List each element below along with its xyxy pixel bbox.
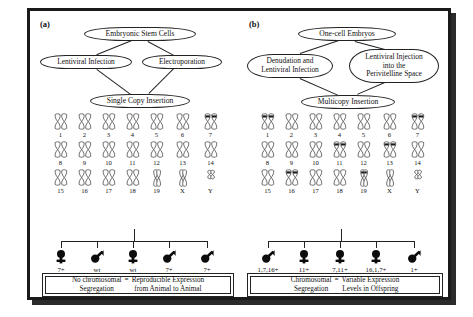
chromosome-3[interactable]: 3 xyxy=(100,113,117,138)
chromosome-number-16: 16 xyxy=(76,187,93,194)
chromosome-1[interactable]: 1 xyxy=(259,113,276,138)
node-method-right-b[interactable]: Lentiviral Injectioninto thePerivitellin… xyxy=(349,49,439,83)
chromosome-16[interactable]: 16 xyxy=(76,169,93,194)
chromosome-7[interactable]: 7 xyxy=(202,113,219,138)
node-source-b[interactable]: One-cell Embryos xyxy=(298,27,396,41)
offspring-4[interactable]: 16,1,7+ xyxy=(361,249,391,274)
chromosome-glyph-19 xyxy=(355,169,372,188)
chromosome-19[interactable]: 19 xyxy=(355,169,372,194)
karyotype-row: 1234567 xyxy=(46,113,236,141)
offspring-5[interactable]: 1+ xyxy=(399,249,429,274)
panel-b: (b) One-cell EmbryosDenudation andLentiv… xyxy=(239,11,448,297)
offspring-2[interactable]: wt xyxy=(82,249,112,274)
node-method-left-b[interactable]: Denudation andLentiviral Infection xyxy=(247,54,333,78)
chromosome-11[interactable]: 11 xyxy=(331,141,348,166)
chromosome-13[interactable]: 13 xyxy=(174,141,191,166)
chromosome-glyph-13 xyxy=(174,141,191,160)
chromosome-number-5: 5 xyxy=(355,131,372,138)
chromosome-1[interactable]: 1 xyxy=(52,113,69,138)
chromosome-6[interactable]: 6 xyxy=(381,113,398,138)
offspring-1[interactable]: 7+ xyxy=(46,249,76,274)
chromosome-8[interactable]: 8 xyxy=(52,141,69,166)
conclusion-equals-a: = xyxy=(125,276,129,285)
chromosome-3[interactable]: 3 xyxy=(307,113,324,138)
chromosome-number-10: 10 xyxy=(307,159,324,166)
pedigree-bar-a xyxy=(61,241,207,242)
chromosome-number-1: 1 xyxy=(259,131,276,138)
chromosome-17[interactable]: 17 xyxy=(307,169,324,194)
connector-source-to-left-b xyxy=(300,40,339,54)
chromosome-12[interactable]: 12 xyxy=(355,141,372,166)
chromosome-9[interactable]: 9 xyxy=(283,141,300,166)
chromosome-19[interactable]: 19 xyxy=(148,169,165,194)
chromosome-number-8: 8 xyxy=(259,159,276,166)
node-source-a-text: Embryonic Stem Cells xyxy=(106,30,175,39)
chromosome-4[interactable]: 4 xyxy=(124,113,141,138)
chromosome-18[interactable]: 18 xyxy=(331,169,348,194)
offspring-2[interactable]: 11+ xyxy=(289,249,319,274)
node-source-a[interactable]: Embryonic Stem Cells xyxy=(84,27,196,41)
chromosome-5[interactable]: 5 xyxy=(355,113,372,138)
chromosome-6[interactable]: 6 xyxy=(174,113,191,138)
chromosome-Y[interactable]: Y xyxy=(202,169,219,194)
chromosome-2[interactable]: 2 xyxy=(76,113,93,138)
offspring-4[interactable]: 7+ xyxy=(154,249,184,274)
chromosome-14[interactable]: 14 xyxy=(409,141,426,166)
chromosome-2[interactable]: 2 xyxy=(283,113,300,138)
chromosome-9[interactable]: 9 xyxy=(76,141,93,166)
chromosome-number-Y: Y xyxy=(202,187,219,194)
chromosome-12[interactable]: 12 xyxy=(148,141,165,166)
chromosome-10[interactable]: 10 xyxy=(307,141,324,166)
chromosome-number-9: 9 xyxy=(76,159,93,166)
karyotype-row: 1516171819XY xyxy=(253,169,443,197)
offspring-3[interactable]: 7,11+ xyxy=(325,249,355,274)
chromosome-5[interactable]: 5 xyxy=(148,113,165,138)
conclusion-right-b: Variable ExpressionLevels in Offspring xyxy=(342,276,400,294)
chromosome-Y[interactable]: Y xyxy=(409,169,426,194)
chromosome-7[interactable]: 7 xyxy=(409,113,426,138)
chromosome-glyph-3 xyxy=(307,113,324,132)
chromosome-15[interactable]: 15 xyxy=(52,169,69,194)
conclusion-grid-b: ChromosomalSegregation=Variable Expressi… xyxy=(291,276,399,294)
chromosome-18[interactable]: 18 xyxy=(124,169,141,194)
node-method-left-a-text: Lentiviral Infection xyxy=(57,58,115,67)
chromosome-glyph-14 xyxy=(202,141,219,160)
chromosome-10[interactable]: 10 xyxy=(100,141,117,166)
chromosome-16[interactable]: 16 xyxy=(283,169,300,194)
karyotype-row: 1234567 xyxy=(253,113,443,141)
karyotype-b: 12345678910111213141516171819XY xyxy=(253,113,443,197)
conclusion-box-b: ChromosomalSegregation=Variable Expressi… xyxy=(247,273,443,297)
conclusion-left-line1: Chromosomal xyxy=(291,276,332,285)
chromosome-glyph-19 xyxy=(148,169,165,188)
chromosome-11[interactable]: 11 xyxy=(124,141,141,166)
node-outcome-b[interactable]: Multicopy Insertion xyxy=(301,95,395,109)
chromosome-glyph-11 xyxy=(124,141,141,160)
chromosome-X[interactable]: X xyxy=(381,169,398,194)
node-outcome-a[interactable]: Single Copy Insertion xyxy=(90,94,190,108)
panel-b-label: (b) xyxy=(249,19,259,29)
chromosome-15[interactable]: 15 xyxy=(259,169,276,194)
chromosome-glyph-14 xyxy=(409,141,426,160)
chromosome-glyph-X xyxy=(381,169,398,188)
chromosome-4[interactable]: 4 xyxy=(331,113,348,138)
chromosome-13[interactable]: 13 xyxy=(381,141,398,166)
conclusion-right-line2: Levels in Offspring xyxy=(342,285,400,294)
node-method-left-a[interactable]: Lentiviral Infection xyxy=(40,55,132,69)
offspring-1[interactable]: 1,7,16+ xyxy=(253,249,283,274)
conclusion-inner-b: ChromosomalSegregation=Variable Expressi… xyxy=(250,276,440,294)
offspring-5[interactable]: 7+ xyxy=(192,249,222,274)
pedigree-drop-5 xyxy=(414,241,415,248)
chromosome-X[interactable]: X xyxy=(174,169,191,194)
offspring-3[interactable]: wt xyxy=(118,249,148,274)
node-method-right-a[interactable]: Electroporation xyxy=(142,55,222,69)
chromosome-14[interactable]: 14 xyxy=(202,141,219,166)
chromosome-glyph-1 xyxy=(52,113,69,132)
chromosome-glyph-7 xyxy=(202,113,219,132)
chromosome-number-X: X xyxy=(381,187,398,194)
chromosome-17[interactable]: 17 xyxy=(100,169,117,194)
conclusion-right-a: Reproducible Expressionfrom Animal to An… xyxy=(132,276,204,294)
chromosome-glyph-9 xyxy=(283,141,300,160)
chromosome-8[interactable]: 8 xyxy=(259,141,276,166)
pedigree-bar-b xyxy=(268,241,414,242)
conclusion-left-a: No chromosomalSegregation xyxy=(72,276,122,294)
